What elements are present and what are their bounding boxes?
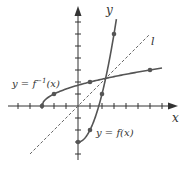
f-inverse-point <box>40 104 45 109</box>
f-inverse-curve <box>42 68 162 106</box>
f-point <box>112 32 117 37</box>
y-axis-label: y <box>105 3 113 17</box>
inverse-function-diagram: y x l y = f(x) y = f−1(x) <box>0 0 188 172</box>
f-inverse-point <box>52 92 57 97</box>
line-l-label: l <box>151 35 155 48</box>
x-axis-arrow-icon <box>168 103 178 110</box>
f-label: y = f(x) <box>95 127 134 138</box>
x-axis-label: x <box>172 111 179 125</box>
f-inverse-point <box>88 80 93 85</box>
f-inverse-point <box>148 68 153 73</box>
f-point <box>100 92 105 97</box>
f-inverse-label: y = f−1(x) <box>11 77 60 89</box>
f-point <box>76 140 81 145</box>
f-point <box>88 128 93 133</box>
y-axis-arrow-icon <box>75 6 82 16</box>
